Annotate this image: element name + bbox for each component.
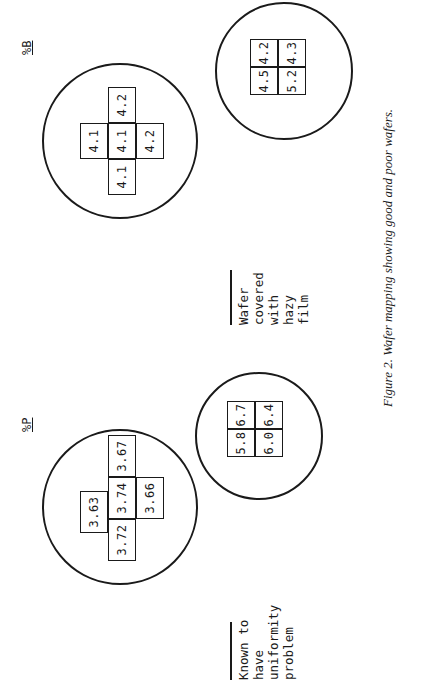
wafer-cell: 5.8 xyxy=(227,429,255,457)
wafer-cell: 6.0 xyxy=(255,429,283,457)
column-label-percent-p: %P xyxy=(20,418,34,432)
wafer-cell: 6.4 xyxy=(255,401,283,429)
wafer-cell: 4.5 xyxy=(250,67,278,95)
wafer-cell: 4.2 xyxy=(250,39,278,67)
column-label-percent-b: %B xyxy=(20,41,34,55)
wafer-cell: 6.7 xyxy=(227,401,255,429)
note-hazy-film: Wafer covered with hazy film xyxy=(236,272,311,325)
wafer-cell: 5.2 xyxy=(278,67,306,95)
note-divider xyxy=(230,622,232,680)
wafer-cell: 3.66 xyxy=(136,477,164,519)
wafer-cell: 4.1 xyxy=(108,159,136,195)
note-divider xyxy=(230,270,232,325)
wafer-cell: 3.72 xyxy=(108,519,136,561)
figure-page: %P %B 3.63 3.72 3.74 3.67 3.66 4.1 4.1 4… xyxy=(0,0,437,685)
wafer-cell: 3.63 xyxy=(80,491,108,533)
wafer-cell: 3.74 xyxy=(108,477,136,519)
wafer-cell: 4.1 xyxy=(108,123,136,159)
figure-caption: Figure 2. Wafer mapping showing good and… xyxy=(380,109,396,407)
wafer-cell: 3.67 xyxy=(108,435,136,477)
wafer-cell: 4.2 xyxy=(108,87,136,123)
note-uniformity-problem: Known to have uniformity problem xyxy=(236,605,296,680)
wafer-cell: 4.3 xyxy=(278,39,306,67)
wafer-cell: 4.1 xyxy=(80,123,108,159)
wafer-cell: 4.2 xyxy=(136,123,164,159)
